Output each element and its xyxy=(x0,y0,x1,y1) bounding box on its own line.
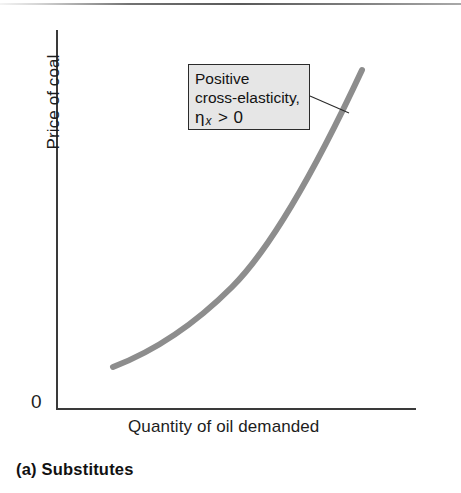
greater-than-sign: > xyxy=(212,108,233,127)
figure-container: Price of coal Quantity of oil demanded 0… xyxy=(0,0,461,493)
origin-label: 0 xyxy=(31,391,42,413)
eta-subscript: x xyxy=(205,114,212,128)
annotation-formula: ηx>0 xyxy=(195,107,304,132)
figure-caption: (a) Substitutes xyxy=(16,460,134,479)
threshold-value: 0 xyxy=(233,108,243,127)
annotation-callout-box: Positive cross-elasticity, ηx>0 xyxy=(188,64,310,130)
eta-symbol: η xyxy=(195,108,205,127)
annotation-line-1: Positive xyxy=(195,69,304,88)
annotation-line-2: cross-elasticity, xyxy=(195,88,304,107)
x-axis-label: Quantity of oil demanded xyxy=(128,417,319,437)
y-axis-label: Price of coal xyxy=(44,12,64,192)
